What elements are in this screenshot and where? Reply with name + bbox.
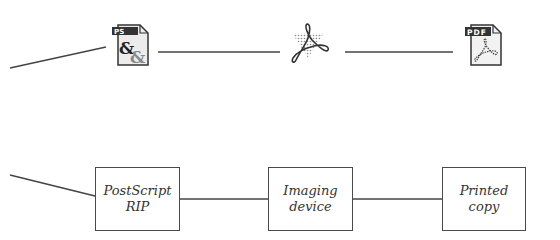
postscript-file-icon: PS & & bbox=[110, 22, 152, 68]
svg-text:&: & bbox=[130, 47, 146, 67]
printed-copy-box: Printed copy bbox=[442, 167, 526, 231]
acrobat-icon bbox=[288, 22, 334, 66]
imaging-device-box: Imaging device bbox=[268, 167, 353, 231]
box-label-line1: PostScript bbox=[103, 183, 171, 199]
box-label-line1: Printed bbox=[460, 183, 509, 199]
pdf-file-icon: PDF bbox=[463, 22, 505, 68]
box-label-line2: RIP bbox=[126, 199, 150, 215]
svg-text:PDF: PDF bbox=[467, 28, 487, 37]
svg-text:PS: PS bbox=[114, 28, 124, 36]
postscript-rip-box: PostScript RIP bbox=[95, 167, 180, 231]
box-label-line2: copy bbox=[469, 199, 500, 215]
box-label-line2: device bbox=[289, 199, 332, 215]
box-label-line1: Imaging bbox=[283, 183, 337, 199]
